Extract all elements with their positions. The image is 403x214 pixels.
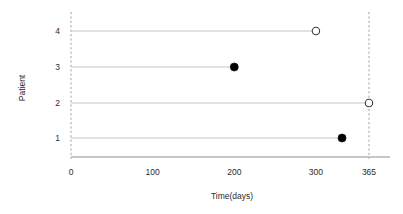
x-tick-label-300: 300 xyxy=(309,168,323,177)
y-tick-label-4: 4 xyxy=(0,27,60,36)
marker-filled-circle-patient-3 xyxy=(230,63,238,71)
chart-plot-area xyxy=(0,0,403,214)
y-tick-label-1: 1 xyxy=(0,134,60,143)
x-tick-label-0: 0 xyxy=(69,168,74,177)
x-tick-label-365: 365 xyxy=(362,168,376,177)
y-axis-title: Patient xyxy=(18,75,27,101)
x-axis-title: Time(days) xyxy=(211,192,253,201)
y-tick-label-3: 3 xyxy=(0,63,60,72)
reference-lines-group xyxy=(71,12,369,159)
survival-timeline-chart: 0100200300365 4321 Time(days) Patient xyxy=(0,0,403,214)
marker-open-circle-patient-2 xyxy=(365,99,372,106)
marker-open-circle-patient-4 xyxy=(312,27,319,34)
event-markers-group xyxy=(230,27,372,142)
y-tick-label-2: 2 xyxy=(0,99,60,108)
patient-followup-lines-group xyxy=(71,31,369,138)
x-tick-label-200: 200 xyxy=(227,168,241,177)
marker-filled-circle-patient-1 xyxy=(338,134,346,142)
x-tick-label-100: 100 xyxy=(146,168,160,177)
